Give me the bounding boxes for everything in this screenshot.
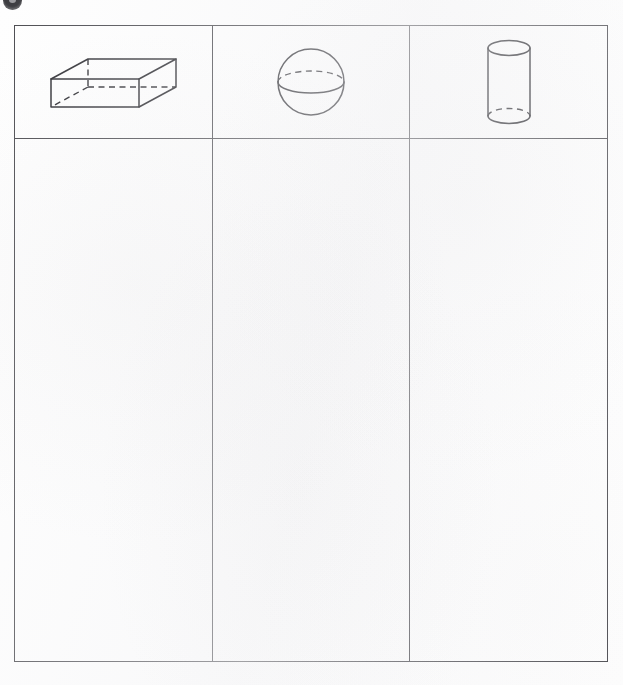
circle-mark-icon	[3, 0, 22, 10]
circle-mark-highlight	[9, 0, 16, 3]
worksheet-page	[0, 0, 623, 685]
figures-table-wrapper	[14, 25, 608, 661]
answer-area-1[interactable]	[15, 139, 212, 661]
figures-table	[14, 25, 608, 662]
shapes-header-row	[15, 26, 608, 139]
answer-cell-sphere[interactable]	[212, 139, 410, 662]
answer-cell-cylinder[interactable]	[410, 139, 608, 662]
answer-cell-rectangular-prism[interactable]	[15, 139, 213, 662]
rectangular-prism-icon	[43, 44, 183, 120]
answer-area-2[interactable]	[213, 139, 410, 661]
sphere-figure	[213, 26, 410, 138]
shape-cell-sphere[interactable]	[212, 26, 410, 139]
shape-cell-cylinder[interactable]	[410, 26, 608, 139]
cylinder-icon	[481, 34, 537, 130]
rectangular-prism-figure	[15, 26, 212, 138]
shape-cell-rectangular-prism[interactable]	[15, 26, 213, 139]
cylinder-figure	[410, 26, 607, 138]
sphere-icon	[271, 42, 351, 122]
answer-area-3[interactable]	[410, 139, 607, 661]
answer-body-row	[15, 139, 608, 662]
